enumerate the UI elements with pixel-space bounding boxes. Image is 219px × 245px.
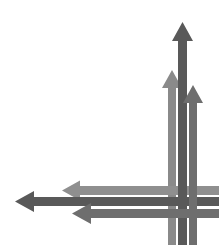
arrow-weave-svg: Crossing arrows diagram	[0, 0, 219, 245]
diagram-canvas: Crossing arrows diagram	[0, 0, 219, 245]
